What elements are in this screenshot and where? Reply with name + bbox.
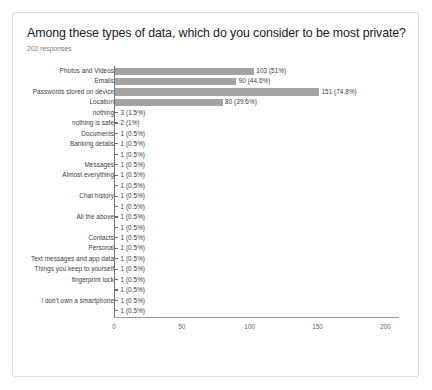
bar-row-label: Banking details — [70, 139, 114, 149]
bar-row: Photos and Videos103 (51%) — [13, 66, 418, 76]
x-tick-label: 0 — [112, 322, 116, 331]
bar-row-label: nothing — [93, 108, 114, 118]
bar-row: Banking details1 (0.5%) — [13, 139, 418, 149]
bar-row: Documents1 (0.5%) — [13, 129, 418, 139]
bar-value-label: 1 (0.5%) — [121, 139, 146, 149]
bar-row-label: Messages — [84, 160, 114, 170]
bar-rows: Photos and Videos103 (51%)Emails90 (44.6… — [13, 66, 418, 317]
bar-value-label: 1 (0.5%) — [121, 285, 146, 295]
bar-row: Contacts1 (0.5%) — [13, 233, 418, 243]
bar-value-label: 80 (39.6%) — [225, 97, 257, 107]
bar-track: 1 (0.5%) — [114, 285, 418, 295]
bar-row: I don't own a smartphone1 (0.5%) — [13, 296, 418, 306]
bar-track: 1 (0.5%) — [114, 306, 418, 316]
bar-row-label: Things you keep to yourself — [34, 264, 114, 274]
bar-value-label: 1 (0.5%) — [121, 223, 146, 233]
bar-row: 1 (0.5%) — [13, 223, 418, 233]
bar-value-label: 90 (44.6%) — [239, 76, 271, 86]
bar[interactable] — [114, 78, 236, 85]
bar-row-label: I don't own a smartphone — [41, 296, 114, 306]
x-tick-label: 100 — [244, 322, 255, 331]
bar-row: Emails90 (44.6%) — [13, 76, 418, 86]
bar-track: 1 (0.5%) — [114, 254, 418, 264]
bar-chart: Photos and Videos103 (51%)Emails90 (44.6… — [13, 66, 418, 366]
bar-row: Text messages and app data1 (0.5%) — [13, 254, 418, 264]
bar-track: 1 (0.5%) — [114, 181, 418, 191]
bar-value-label: 151 (74.8%) — [321, 87, 356, 97]
bar-value-label: 1 (0.5%) — [121, 275, 146, 285]
bar-track: 103 (51%) — [114, 66, 418, 76]
bar-track: 1 (0.5%) — [114, 223, 418, 233]
bar-value-label: 1 (0.5%) — [121, 254, 146, 264]
bar-value-label: 1 (0.5%) — [121, 243, 146, 253]
bar-track: 3 (1.5%) — [114, 108, 418, 118]
x-tick-label: 50 — [178, 322, 185, 331]
bar-value-label: 103 (51%) — [256, 66, 286, 76]
bar-track: 1 (0.5%) — [114, 139, 418, 149]
bar-value-label: 1 (0.5%) — [121, 306, 146, 316]
bar-row: fingerprint lock1 (0.5%) — [13, 275, 418, 285]
bar-track: 1 (0.5%) — [114, 202, 418, 212]
bar-row: 1 (0.5%) — [13, 202, 418, 212]
bar-value-label: 1 (0.5%) — [121, 202, 146, 212]
bar-row-label: nothing is safe — [72, 118, 114, 128]
bar-value-label: 1 (0.5%) — [121, 160, 146, 170]
x-axis-line — [114, 317, 399, 318]
bar-row-label: Passwords stored on device — [33, 87, 114, 97]
bar-track: 2 (1%) — [114, 118, 418, 128]
bar-track: 1 (0.5%) — [114, 296, 418, 306]
bar-value-label: 1 (0.5%) — [121, 181, 146, 191]
bar-track: 1 (0.5%) — [114, 243, 418, 253]
x-tick-label: 150 — [312, 322, 323, 331]
bar-row-label: Chat history — [79, 191, 114, 201]
bar-row: Location80 (39.6%) — [13, 97, 418, 107]
bar-row-label: All the above — [76, 212, 114, 222]
bar-row-label: Almost everything — [62, 170, 114, 180]
bar[interactable] — [114, 68, 254, 75]
bar-track: 1 (0.5%) — [114, 212, 418, 222]
bar-value-label: 1 (0.5%) — [121, 129, 146, 139]
bar-row-label: Emails — [95, 76, 114, 86]
bar-track: 151 (74.8%) — [114, 87, 418, 97]
bar-row: Personal1 (0.5%) — [13, 243, 418, 253]
bar-row: 1 (0.5%) — [13, 285, 418, 295]
bar-track: 1 (0.5%) — [114, 275, 418, 285]
bar-row-label: Location — [89, 97, 114, 107]
bar-row: All the above1 (0.5%) — [13, 212, 418, 222]
bar-row: Things you keep to yourself1 (0.5%) — [13, 264, 418, 274]
bar-track: 1 (0.5%) — [114, 170, 418, 180]
bar-track: 1 (0.5%) — [114, 264, 418, 274]
bar[interactable] — [114, 88, 319, 95]
bar-row-label: Contacts — [88, 233, 114, 243]
bar-value-label: 1 (0.5%) — [121, 264, 146, 274]
bar-row: Messages1 (0.5%) — [13, 160, 418, 170]
bar-track: 90 (44.6%) — [114, 76, 418, 86]
bar-row: Chat history1 (0.5%) — [13, 191, 418, 201]
bar-value-label: 1 (0.5%) — [121, 170, 146, 180]
bar-row: nothing is safe2 (1%) — [13, 118, 418, 128]
bar-row: 1 (0.5%) — [13, 150, 418, 160]
y-axis-line — [114, 66, 115, 317]
bar-value-label: 1 (0.5%) — [121, 191, 146, 201]
bar-row-label: Photos and Videos — [60, 66, 114, 76]
bar-track: 80 (39.6%) — [114, 97, 418, 107]
bar-row: 1 (0.5%) — [13, 181, 418, 191]
responses-count: 202 responses — [27, 44, 408, 53]
bar-value-label: 1 (0.5%) — [121, 296, 146, 306]
bar-value-label: 2 (1%) — [121, 118, 140, 128]
bar-row-label: Documents — [81, 129, 114, 139]
bar[interactable] — [114, 99, 223, 106]
page-title: Among these types of data, which do you … — [27, 26, 408, 41]
chart-header: Among these types of data, which do you … — [27, 26, 408, 53]
bar-row-label: fingerprint lock — [72, 275, 114, 285]
bar-track: 1 (0.5%) — [114, 160, 418, 170]
bar-value-label: 1 (0.5%) — [121, 212, 146, 222]
bar-row: 1 (0.5%) — [13, 306, 418, 316]
x-tick-label: 200 — [380, 322, 391, 331]
bar-row: Passwords stored on device151 (74.8%) — [13, 87, 418, 97]
bar-value-label: 1 (0.5%) — [121, 150, 146, 160]
bar-row: Almost everything1 (0.5%) — [13, 170, 418, 180]
bar-track: 1 (0.5%) — [114, 129, 418, 139]
bar-value-label: 3 (1.5%) — [121, 108, 146, 118]
bar-value-label: 1 (0.5%) — [121, 233, 146, 243]
